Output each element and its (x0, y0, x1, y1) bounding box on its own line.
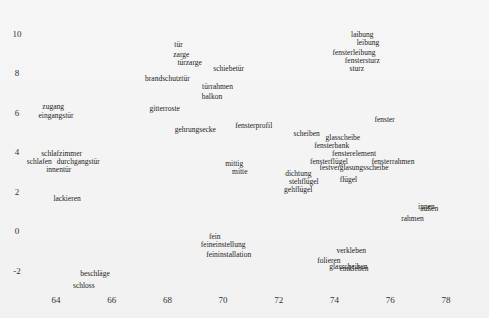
y-axis-tick-label: 2 (15, 187, 20, 197)
point-label: brandschutztür (145, 75, 190, 83)
scatter-plot-area: 1086420-26466687072747678türzargetürzarg… (0, 0, 489, 318)
point-label: außen (420, 206, 438, 214)
point-label: tür (174, 42, 182, 50)
x-axis-tick-label: 70 (219, 295, 228, 305)
point-label: leibung (357, 40, 380, 48)
x-axis-tick-label: 74 (330, 295, 339, 305)
y-axis-tick-label: 10 (13, 29, 22, 39)
x-axis-tick-label: 66 (107, 295, 116, 305)
point-label: beschläge (80, 271, 110, 279)
point-label: schloss (73, 283, 95, 291)
point-label: balkon (202, 93, 222, 101)
point-label: gehrungsecke (175, 127, 216, 135)
point-label: fensterprofil (235, 123, 272, 131)
point-label: lackieren (53, 196, 80, 204)
point-label: türrahmen (202, 83, 233, 91)
point-label: feininstallation (206, 251, 251, 259)
x-axis-tick-label: 68 (163, 295, 172, 305)
point-label: innentür (46, 166, 71, 174)
point-label: scheiben (294, 130, 320, 138)
x-axis-tick-label: 78 (441, 295, 450, 305)
x-axis-tick-label: 76 (386, 295, 395, 305)
point-label: festverglasungsscheibe (319, 164, 388, 172)
point-label: verkleben (336, 247, 366, 255)
point-label: fenster (374, 117, 394, 125)
y-axis-tick-label: 4 (15, 147, 20, 157)
point-label: gitterroste (149, 105, 179, 113)
point-label: sturz (349, 65, 364, 73)
y-axis-tick-label: -2 (13, 266, 21, 276)
point-label: gehflügel (284, 186, 312, 194)
y-axis-tick-label: 6 (15, 108, 20, 118)
y-axis-tick-label: 8 (15, 68, 20, 78)
x-axis-tick-label: 64 (52, 295, 61, 305)
point-label: schiebetür (213, 65, 244, 73)
point-label: türzarge (177, 59, 201, 67)
point-label: rahmen (401, 215, 424, 223)
y-axis-tick-label: 0 (15, 226, 20, 236)
x-axis-tick-label: 72 (274, 295, 283, 305)
point-label: flügel (340, 176, 358, 184)
point-label: einkleben (339, 265, 368, 273)
point-label: mitte (232, 168, 247, 176)
point-label: feineinstellung (201, 241, 246, 249)
point-label: zugang (42, 103, 64, 111)
point-label: eingangstür (39, 113, 74, 121)
